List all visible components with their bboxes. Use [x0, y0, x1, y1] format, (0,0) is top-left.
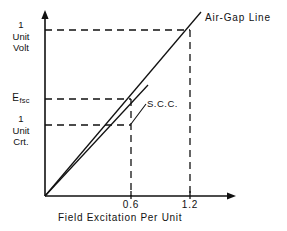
scc-label: S.C.C. — [147, 98, 178, 109]
y-label-efsc-symbol: E — [12, 92, 19, 103]
x-axis-ticks — [131, 191, 190, 199]
y-label-efsc-subscript: fsc — [20, 96, 30, 105]
y-label-unit-current-line1: 1 — [2, 113, 40, 125]
y-label-unit-volt-line2: Unit — [2, 31, 40, 43]
plot-canvas — [0, 0, 287, 231]
scc-leader-line — [131, 104, 146, 124]
y-label-unit-current: 1 Unit Crt. — [2, 113, 40, 148]
y-label-unit-volt: 1 Unit Volt — [2, 19, 40, 54]
x-tick-label-06: 0.6 — [114, 199, 148, 210]
y-label-efsc: Efsc — [2, 92, 40, 106]
scc-curve — [45, 85, 148, 196]
y-label-unit-current-line3: Crt. — [2, 136, 40, 148]
y-label-unit-volt-line1: 1 — [2, 19, 40, 31]
y-label-unit-volt-line3: Volt — [2, 42, 40, 54]
x-axis-title: Field Excitation Per Unit — [58, 212, 182, 223]
x-tick-label-12: 1.2 — [173, 199, 207, 210]
air-gap-line-label: Air-Gap Line — [205, 12, 271, 23]
y-axis — [41, 10, 48, 196]
y-label-unit-current-line2: Unit — [2, 125, 40, 137]
figure-container: 1 Unit Volt Efsc 1 Unit Crt. 0.6 1.2 Fie… — [0, 0, 287, 231]
